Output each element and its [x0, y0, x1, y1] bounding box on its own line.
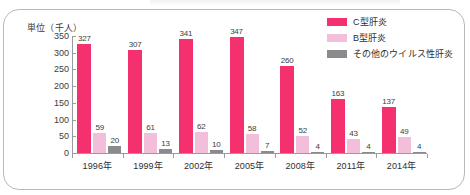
y-axis-tick-label: 100 — [39, 115, 69, 125]
bar-c-gata: 347 — [230, 37, 244, 153]
bar-b-gata: 43 — [347, 139, 360, 153]
bar-value-label: 7 — [265, 141, 269, 150]
bar-sonota: 13 — [159, 149, 172, 153]
bar-c-gata: 137 — [382, 107, 396, 153]
x-axis-tick-mark — [275, 154, 276, 158]
bar-sonota: 10 — [210, 150, 223, 153]
bar-value-label: 260 — [281, 56, 294, 65]
bar-group: 3076113 — [128, 36, 172, 153]
x-axis-tick-mark — [376, 154, 377, 158]
bar-b-gata: 58 — [246, 134, 259, 153]
legend-label: C型肝炎 — [353, 15, 387, 28]
bar-value-label: 307 — [129, 40, 142, 49]
y-axis-tick-mark — [72, 136, 76, 137]
bar-sonota: 4 — [362, 152, 375, 154]
bar-value-label: 4 — [417, 142, 421, 151]
bar-group: 260524 — [280, 36, 324, 153]
x-axis-tick-mark — [427, 154, 428, 158]
bar-c-gata: 307 — [128, 50, 142, 153]
y-axis-tick-mark — [72, 69, 76, 70]
bar-group: 163434 — [331, 36, 375, 153]
x-axis-line — [72, 153, 427, 154]
x-axis-tick-label: 2005年 — [224, 159, 275, 172]
bar-sonota: 4 — [311, 152, 324, 154]
y-axis-tick-label: 250 — [39, 64, 69, 74]
x-axis-tick-label: 2014年 — [376, 159, 427, 172]
bar-value-label: 341 — [179, 29, 192, 38]
legend-item: C型肝炎 — [327, 14, 462, 29]
bar-value-label: 52 — [298, 126, 307, 135]
bar-b-gata: 59 — [93, 133, 106, 153]
bar-value-label: 137 — [382, 97, 395, 106]
y-axis-tick-mark — [72, 86, 76, 87]
y-axis-tick-label: 200 — [39, 81, 69, 91]
x-axis-tick-mark — [72, 154, 73, 158]
bar-sonota: 4 — [413, 152, 426, 154]
plot-area: 0501001502002503003503275920307611334162… — [72, 36, 427, 154]
bar-sonota: 7 — [261, 151, 274, 153]
x-axis-tick-label: 2002年 — [173, 159, 224, 172]
y-axis-tick-mark — [72, 36, 76, 37]
bar-value-label: 59 — [96, 123, 105, 132]
bar-value-label: 163 — [332, 89, 345, 98]
bar-value-label: 4 — [316, 142, 320, 151]
x-axis-tick-mark — [173, 154, 174, 158]
chart-screenshot: 単位（千人） C型肝炎B型肝炎その他のウイルス性肝炎 0501001502002… — [0, 0, 470, 195]
bar-value-label: 327 — [78, 34, 91, 43]
bar-group: 347587 — [230, 36, 274, 153]
x-axis-tick-label: 1996年 — [72, 159, 123, 172]
bar-c-gata: 341 — [179, 39, 193, 153]
bar-group: 137494 — [382, 36, 426, 153]
bar-sonota: 20 — [108, 146, 121, 153]
y-axis-tick-label: 150 — [39, 98, 69, 108]
x-axis-tick-label: 1999年 — [123, 159, 174, 172]
bar-group: 3416210 — [179, 36, 223, 153]
x-axis-tick-label: 2011年 — [326, 159, 377, 172]
scan-artifact-strip — [150, 0, 400, 6]
bar-b-gata: 62 — [195, 132, 208, 153]
bar-b-gata: 61 — [144, 133, 157, 153]
x-axis-tick-mark — [123, 154, 124, 158]
y-axis-tick-label: 300 — [39, 48, 69, 58]
legend-swatch-icon — [327, 18, 347, 26]
bar-c-gata: 163 — [331, 99, 345, 153]
x-axis-tick-label: 2008年 — [275, 159, 326, 172]
y-axis-tick-mark — [72, 120, 76, 121]
bar-value-label: 20 — [111, 136, 120, 145]
bar-value-label: 49 — [400, 127, 409, 136]
bar-value-label: 13 — [161, 139, 170, 148]
bar-value-label: 43 — [349, 129, 358, 138]
y-axis-tick-label: 50 — [39, 131, 69, 141]
y-axis-tick-label: 0 — [39, 148, 69, 158]
y-axis-tick-mark — [72, 53, 76, 54]
bar-b-gata: 49 — [398, 137, 411, 153]
bar-group: 3275920 — [77, 36, 121, 153]
bar-value-label: 61 — [146, 123, 155, 132]
bar-c-gata: 327 — [77, 44, 91, 153]
x-axis-tick-mark — [326, 154, 327, 158]
bar-value-label: 4 — [366, 142, 370, 151]
y-axis-tick-mark — [72, 103, 76, 104]
bar-b-gata: 52 — [296, 136, 309, 153]
bar-value-label: 58 — [248, 124, 257, 133]
bar-value-label: 62 — [197, 122, 206, 131]
bar-c-gata: 260 — [280, 66, 294, 153]
bar-value-label: 10 — [212, 140, 221, 149]
bar-value-label: 347 — [230, 27, 243, 36]
y-axis-tick-label: 350 — [39, 31, 69, 41]
x-axis-tick-mark — [224, 154, 225, 158]
